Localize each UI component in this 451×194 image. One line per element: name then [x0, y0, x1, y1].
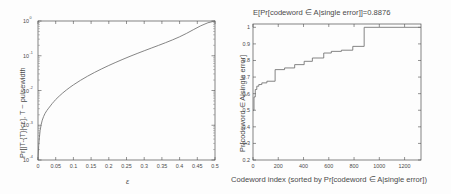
svg-text:-3: -3 — [30, 121, 33, 125]
svg-text:-1: -1 — [30, 51, 33, 55]
left-data-curve — [38, 21, 215, 160]
svg-text:0.3: 0.3 — [140, 163, 148, 169]
right-y-axis-label: Pr[codeword ∈ A|single error] — [239, 55, 246, 152]
svg-text:0.35: 0.35 — [157, 163, 168, 169]
svg-text:400: 400 — [299, 163, 308, 169]
right-plot-title: E[Pr[codeword ∈ A|single error]]=0.8876 — [253, 9, 391, 17]
left-plot-panel: 00.050.10.150.20.250.30.350.40.450.510-4… — [0, 0, 225, 194]
left-tick-labels: 00.050.10.150.20.250.30.350.40.450.510-4… — [23, 16, 219, 169]
left-tick-marks — [38, 21, 215, 160]
svg-text:-2: -2 — [30, 86, 33, 90]
right-tick-labels: 0200400600800100012000.20.30.40.50.60.70… — [243, 24, 411, 169]
left-plot-canvas: 00.050.10.150.20.250.30.350.40.450.510-4… — [0, 0, 225, 194]
right-tick-marks — [253, 24, 421, 160]
svg-text:-4: -4 — [30, 155, 33, 159]
right-data-curve — [253, 27, 421, 110]
svg-text:0.5: 0.5 — [211, 163, 219, 169]
svg-text:0: 0 — [30, 16, 32, 20]
svg-text:0.2: 0.2 — [105, 163, 113, 169]
svg-text:1000: 1000 — [373, 163, 385, 169]
svg-text:800: 800 — [350, 163, 359, 169]
svg-text:0.2: 0.2 — [243, 157, 251, 163]
svg-text:0.1: 0.1 — [70, 163, 78, 169]
svg-text:0: 0 — [252, 163, 255, 169]
left-y-axis-label: Pr[|T-{T}|<ε], T ~ pulsewidth — [19, 67, 26, 158]
svg-text:10: 10 — [23, 53, 29, 59]
svg-text:0.25: 0.25 — [121, 163, 132, 169]
svg-text:0.45: 0.45 — [192, 163, 203, 169]
svg-text:1200: 1200 — [399, 163, 411, 169]
svg-text:10: 10 — [23, 18, 29, 24]
svg-text:0.15: 0.15 — [86, 163, 97, 169]
svg-text:0: 0 — [37, 163, 40, 169]
left-axes-frame — [38, 21, 215, 160]
figure-container: 00.050.10.150.20.250.30.350.40.450.510-4… — [0, 0, 451, 194]
svg-text:600: 600 — [324, 163, 333, 169]
right-plot-panel: 0200400600800100012000.20.30.40.50.60.70… — [226, 0, 451, 194]
right-axes-frame — [253, 24, 421, 160]
right-plot-canvas: 0200400600800100012000.20.30.40.50.60.70… — [226, 0, 451, 194]
left-x-axis-label: ε — [126, 178, 129, 185]
svg-text:200: 200 — [274, 163, 283, 169]
svg-text:0.05: 0.05 — [50, 163, 61, 169]
svg-text:1: 1 — [247, 24, 250, 30]
right-x-axis-label: Codeword index (sorted by Pr[codeword ∈ … — [231, 176, 427, 184]
svg-text:0.4: 0.4 — [176, 163, 184, 169]
svg-text:0.9: 0.9 — [243, 41, 251, 47]
